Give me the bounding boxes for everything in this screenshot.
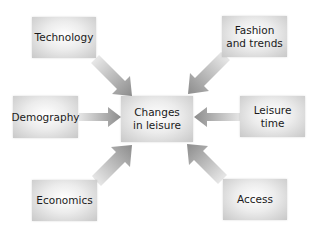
center-label: Changes in leisure xyxy=(133,106,181,132)
factor-label-leisure-time: Leisure time xyxy=(254,104,292,130)
factor-box-technology: Technology xyxy=(32,17,96,58)
factor-label-fashion-and-trends: Fashion and trends xyxy=(226,24,283,50)
arrow-technology xyxy=(91,55,132,96)
arrow-economics xyxy=(92,145,132,186)
center-box-changes-in-leisure: Changes in leisure xyxy=(121,96,193,142)
factor-label-economics: Economics xyxy=(36,194,92,207)
arrow-leisure-time xyxy=(194,107,240,127)
factor-box-leisure-time: Leisure time xyxy=(240,96,305,137)
arrow-access xyxy=(187,144,227,184)
factor-box-demography: Demography xyxy=(13,96,78,138)
factor-label-demography: Demography xyxy=(11,111,79,124)
arrow-fashion xyxy=(188,52,230,94)
factor-box-access: Access xyxy=(223,179,287,220)
factor-label-access: Access xyxy=(237,193,273,206)
factor-box-fashion-and-trends: Fashion and trends xyxy=(222,16,287,57)
arrow-demography xyxy=(79,107,121,127)
factor-label-technology: Technology xyxy=(35,31,94,44)
factor-box-economics: Economics xyxy=(32,180,97,221)
